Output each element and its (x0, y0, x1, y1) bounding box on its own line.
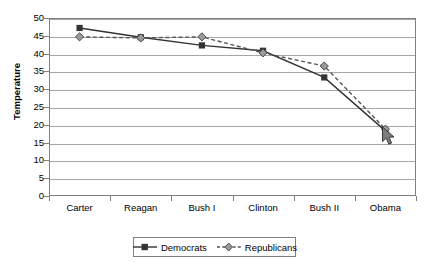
x-tick-label: Carter (66, 202, 92, 213)
y-tick-label: 25 (4, 102, 44, 112)
x-tick-label: Bush I (188, 202, 215, 213)
data-point-democrats-bush-i (199, 42, 205, 48)
x-tick-label: Obama (370, 202, 401, 213)
series-layer (49, 18, 416, 196)
y-tick-label: 35 (4, 66, 44, 76)
y-tick-label: 20 (4, 120, 44, 130)
x-tick-mark (171, 196, 172, 201)
legend-label-democrats: Democrats (161, 242, 207, 253)
data-point-republicans-carter (75, 33, 83, 41)
x-tick-mark (355, 196, 356, 201)
y-tick-label: 10 (4, 155, 44, 165)
x-tick-mark (294, 196, 295, 201)
x-tick-label: Clinton (248, 202, 278, 213)
series-line-republicans (80, 37, 386, 129)
data-point-democrats-bush-ii (321, 74, 327, 80)
y-tick-label: 30 (4, 84, 44, 94)
legend-marker-diamond-icon (216, 242, 242, 252)
x-tick-label: Reagan (124, 202, 157, 213)
y-tick-label: 15 (4, 138, 44, 148)
legend-item-democrats: Democrats (132, 242, 207, 253)
y-tick-label: 5 (4, 173, 44, 183)
series-line-democrats (80, 28, 386, 131)
data-point-democrats-carter (76, 25, 82, 31)
chart-legend: Democrats Republicans (133, 237, 296, 257)
y-tick-label: 45 (4, 31, 44, 41)
y-tick-label: 40 (4, 49, 44, 59)
x-tick-label: Bush II (309, 202, 339, 213)
line-chart: Temperature 50454035302520151050 CarterR… (0, 0, 428, 262)
y-tick-label: 50 (4, 13, 44, 23)
x-tick-mark (49, 196, 50, 201)
mouse-pointer-icon (381, 126, 397, 146)
legend-marker-square-icon (132, 242, 158, 252)
legend-label-republicans: Republicans (245, 242, 297, 253)
x-tick-mark (416, 196, 417, 201)
y-axis-ticks: 50454035302520151050 (0, 0, 44, 262)
data-point-republicans-bush-i (198, 33, 206, 41)
legend-item-republicans: Republicans (216, 242, 297, 253)
x-tick-mark (233, 196, 234, 201)
x-tick-mark (110, 196, 111, 201)
y-tick-label: 0 (4, 191, 44, 201)
